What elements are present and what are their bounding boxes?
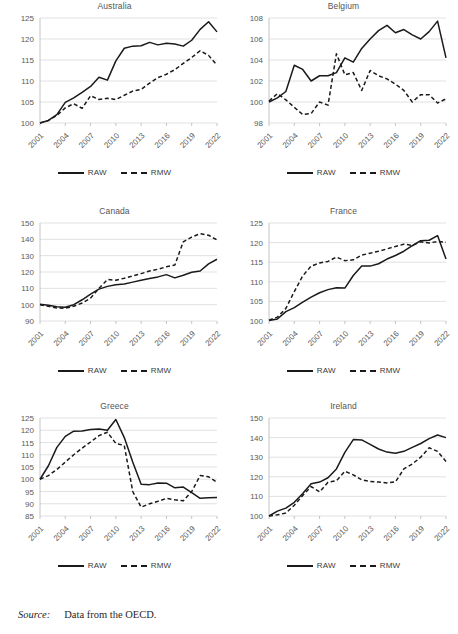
- svg-text:2001: 2001: [26, 131, 45, 150]
- legend-belgium: RAW RMW: [229, 168, 458, 177]
- legend-item-rmw: RMW: [350, 561, 401, 570]
- svg-text:108: 108: [250, 14, 264, 23]
- series-line-raw: [269, 236, 446, 321]
- svg-text:2019: 2019: [407, 131, 426, 150]
- series-line-raw: [269, 21, 446, 102]
- svg-text:2004: 2004: [281, 329, 300, 348]
- svg-text:2022: 2022: [203, 131, 222, 150]
- series-line-rmw: [40, 234, 217, 308]
- svg-text:100: 100: [250, 98, 264, 107]
- svg-text:2007: 2007: [306, 131, 325, 150]
- svg-text:150: 150: [250, 414, 264, 423]
- line-chart-belgium: 9810010210410610820012004200720102013201…: [229, 12, 458, 167]
- svg-text:90: 90: [25, 500, 34, 509]
- legend-label-rmw: RMW: [151, 168, 172, 177]
- legend-label-raw: RAW: [317, 366, 336, 375]
- svg-text:125: 125: [21, 414, 35, 423]
- svg-text:115: 115: [21, 56, 34, 65]
- svg-text:2019: 2019: [178, 131, 197, 150]
- svg-text:100: 100: [21, 119, 35, 128]
- plot-area-belgium: 9810010210410610820012004200720102013201…: [229, 12, 458, 167]
- svg-text:90: 90: [25, 317, 34, 326]
- svg-text:2019: 2019: [407, 329, 426, 348]
- legend-line-dashed-icon: [350, 172, 376, 174]
- svg-text:2022: 2022: [432, 329, 451, 348]
- svg-text:130: 130: [21, 252, 35, 261]
- svg-text:2022: 2022: [432, 524, 451, 543]
- legend-line-solid-icon: [287, 370, 313, 372]
- legend-item-raw: RAW: [287, 168, 336, 177]
- svg-text:2004: 2004: [52, 329, 71, 348]
- svg-text:2016: 2016: [382, 131, 401, 150]
- chart-panel-france: France 100105110115120125200120042007201…: [229, 205, 458, 400]
- svg-text:2010: 2010: [331, 131, 350, 150]
- svg-text:110: 110: [250, 492, 263, 501]
- svg-text:2001: 2001: [255, 329, 274, 348]
- legend-australia: RAW RMW: [0, 168, 229, 177]
- legend-item-raw: RAW: [58, 168, 107, 177]
- legend-item-rmw: RMW: [121, 168, 172, 177]
- line-chart-australia: 1001051101151201252001200420072010201320…: [0, 12, 229, 167]
- source-text: Data from the OECD.: [64, 609, 156, 620]
- chart-title-greece: Greece: [0, 400, 229, 412]
- svg-text:104: 104: [250, 56, 264, 65]
- chart-title-belgium: Belgium: [229, 0, 458, 12]
- svg-text:120: 120: [21, 426, 35, 435]
- svg-text:2001: 2001: [26, 329, 45, 348]
- chart-panel-canada: Canada 901001101201301401502001200420072…: [0, 205, 229, 400]
- svg-text:2013: 2013: [357, 329, 376, 348]
- svg-text:2016: 2016: [153, 131, 172, 150]
- plot-area-ireland: 1001101201301401502001200420072010201320…: [229, 412, 458, 560]
- chart-panel-ireland: Ireland 10011012013014015020012004200720…: [229, 400, 458, 595]
- source-note: Source:Data from the OECD.: [18, 609, 156, 620]
- svg-text:2022: 2022: [203, 329, 222, 348]
- svg-text:2016: 2016: [153, 329, 172, 348]
- legend-line-solid-icon: [58, 172, 84, 174]
- svg-text:2007: 2007: [77, 131, 96, 150]
- svg-text:100: 100: [250, 317, 264, 326]
- svg-text:2007: 2007: [77, 329, 96, 348]
- legend-label-raw: RAW: [317, 168, 336, 177]
- legend-line-dashed-icon: [350, 565, 376, 567]
- legend-item-raw: RAW: [58, 366, 107, 375]
- svg-text:2016: 2016: [382, 524, 401, 543]
- svg-text:2019: 2019: [407, 524, 426, 543]
- svg-text:2016: 2016: [382, 329, 401, 348]
- svg-text:2010: 2010: [331, 329, 350, 348]
- svg-text:2004: 2004: [52, 524, 71, 543]
- legend-france: RAW RMW: [229, 366, 458, 375]
- source-label: Source:: [18, 609, 50, 620]
- svg-text:102: 102: [250, 77, 264, 86]
- svg-text:2001: 2001: [26, 524, 45, 543]
- series-line-rmw: [269, 54, 446, 115]
- svg-text:100: 100: [21, 301, 35, 310]
- svg-text:2007: 2007: [306, 329, 325, 348]
- chart-panel-belgium: Belgium 98100102104106108200120042007201…: [229, 0, 458, 205]
- plot-area-france: 1001051101151201252001200420072010201320…: [229, 217, 458, 365]
- svg-text:2016: 2016: [153, 524, 172, 543]
- legend-item-raw: RAW: [58, 561, 107, 570]
- legend-canada: RAW RMW: [0, 366, 229, 375]
- svg-text:140: 140: [21, 235, 35, 244]
- line-chart-canada: 9010011012013014015020012004200720102013…: [0, 217, 229, 365]
- svg-text:2010: 2010: [102, 131, 121, 150]
- legend-item-rmw: RMW: [121, 366, 172, 375]
- legend-line-solid-icon: [58, 370, 84, 372]
- chart-title-ireland: Ireland: [229, 400, 458, 412]
- svg-text:2013: 2013: [128, 329, 147, 348]
- legend-line-dashed-icon: [350, 370, 376, 372]
- svg-text:85: 85: [25, 512, 34, 521]
- svg-text:110: 110: [250, 278, 263, 287]
- legend-label-rmw: RMW: [380, 168, 401, 177]
- svg-text:2013: 2013: [128, 131, 147, 150]
- series-line-rmw: [40, 432, 217, 507]
- series-line-rmw: [40, 51, 217, 123]
- series-line-raw: [40, 419, 217, 498]
- svg-text:125: 125: [21, 14, 35, 23]
- svg-text:115: 115: [21, 439, 34, 448]
- svg-text:150: 150: [21, 219, 35, 228]
- legend-line-dashed-icon: [121, 370, 147, 372]
- legend-item-raw: RAW: [287, 561, 336, 570]
- legend-ireland: RAW RMW: [229, 561, 458, 570]
- chart-panel-greece: Greece 859095100105110115120125200120042…: [0, 400, 229, 595]
